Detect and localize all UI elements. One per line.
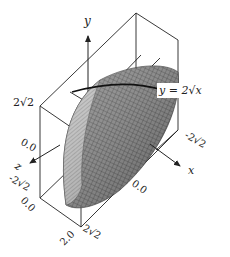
x-tick-zero: 0.0 <box>130 178 149 196</box>
y-tick-zero: 0.0 <box>19 136 38 153</box>
z-tick-zero: 0.0 <box>19 195 38 214</box>
z-tick-two: 2.0 <box>58 228 77 247</box>
y-axis-label: y <box>83 14 91 28</box>
x-tick-neg: -2√2 <box>183 129 208 150</box>
surface-plot-figure: y 2√2 y = 2√x 0.0 z -2√2 0.0 2.0 2√2 -2√… <box>0 0 230 257</box>
curve-label: y = 2√x <box>158 84 202 97</box>
z-tick-neg: -2√2 <box>7 172 32 193</box>
y-tick-top: 2√2 <box>13 96 34 109</box>
x-axis <box>150 144 180 166</box>
x-axis-label: x <box>188 164 195 177</box>
z-tick-pos: 2√2 <box>81 222 103 241</box>
z-axis-label: z <box>12 159 25 174</box>
